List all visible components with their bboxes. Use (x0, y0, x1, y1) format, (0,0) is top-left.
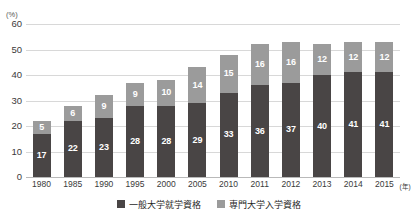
bar-segment-upper-2010[interactable]: 15 (220, 55, 238, 93)
bar-segment-lower-1980[interactable]: 17 (33, 134, 51, 177)
x-tick-label-2010: 2010 (212, 179, 246, 189)
bar-segment-lower-2000[interactable]: 28 (157, 106, 175, 177)
legend-item-1[interactable]: 専門大学入学資格 (217, 198, 301, 211)
x-tick-label-2014: 2014 (336, 179, 370, 189)
bar-group-1985[interactable]: 226 (64, 106, 82, 177)
bar-value-upper-2000: 10 (161, 88, 171, 97)
y-tick-label-20: 20 (0, 121, 22, 131)
legend-swatch-icon-0 (117, 200, 125, 208)
x-tick-label-1985: 1985 (56, 179, 90, 189)
bar-value-lower-2010: 33 (224, 130, 234, 139)
bar-segment-upper-2012[interactable]: 16 (282, 42, 300, 83)
bar-value-lower-1990: 23 (99, 143, 109, 152)
bar-value-upper-2012: 16 (286, 58, 296, 67)
bar-value-upper-2014: 12 (348, 53, 358, 62)
x-tick-label-1995: 1995 (118, 179, 152, 189)
y-tick-label-60: 60 (0, 19, 22, 29)
bar-segment-lower-2015[interactable]: 41 (375, 72, 393, 177)
stacked-bar-chart: (%) 6050403020100 1752262392892810291433… (0, 0, 417, 215)
bar-group-2014[interactable]: 4112 (344, 42, 362, 177)
bar-segment-lower-2011[interactable]: 36 (251, 85, 269, 177)
bar-value-lower-2005: 29 (193, 136, 203, 145)
bar-value-upper-2005: 14 (193, 81, 203, 90)
bar-segment-upper-1985[interactable]: 6 (64, 106, 82, 121)
bar-value-lower-2000: 28 (161, 137, 171, 146)
x-tick-label-2005: 2005 (180, 179, 214, 189)
bar-value-upper-1995: 9 (133, 90, 138, 99)
plot-area: 1752262392892810291433153616371640124112… (26, 24, 400, 177)
bar-value-lower-2015: 41 (380, 120, 390, 129)
bar-segment-upper-1990[interactable]: 9 (95, 95, 113, 118)
bar-segment-lower-1985[interactable]: 22 (64, 121, 82, 177)
bar-value-lower-2014: 41 (348, 120, 358, 129)
bar-segment-upper-1995[interactable]: 9 (126, 83, 144, 106)
y-tick-label-10: 10 (0, 147, 22, 157)
bar-segment-lower-1995[interactable]: 28 (126, 106, 144, 177)
bar-value-lower-2011: 36 (255, 127, 265, 136)
y-tick-label-30: 30 (0, 96, 22, 106)
bar-group-2005[interactable]: 2914 (188, 67, 206, 177)
y-tick-label-40: 40 (0, 70, 22, 80)
bar-value-lower-1995: 28 (130, 137, 140, 146)
bar-value-upper-2011: 16 (255, 60, 265, 69)
x-tick-label-2015: 2015 (367, 179, 401, 189)
page-bleed-text (6, 0, 306, 6)
bar-segment-upper-2014[interactable]: 12 (344, 42, 362, 73)
bar-value-upper-2013: 12 (317, 55, 327, 64)
x-tick-label-2011: 2011 (243, 179, 277, 189)
y-axis-tick-labels: 6050403020100 (0, 24, 22, 177)
bar-group-1980[interactable]: 175 (33, 121, 51, 177)
bar-segment-lower-2014[interactable]: 41 (344, 72, 362, 177)
legend-label-1: 専門大学入学資格 (229, 198, 301, 211)
gridline-0 (26, 177, 400, 178)
bar-segment-lower-2010[interactable]: 33 (220, 93, 238, 177)
bar-value-upper-1990: 9 (102, 102, 107, 111)
bar-segment-lower-1990[interactable]: 23 (95, 118, 113, 177)
y-tick-label-0: 0 (0, 172, 22, 182)
bar-series-container: 1752262392892810291433153616371640124112… (26, 24, 400, 177)
x-tick-label-2000: 2000 (149, 179, 183, 189)
bar-value-upper-2010: 15 (224, 69, 234, 78)
bar-value-lower-1985: 22 (68, 144, 78, 153)
bar-group-1990[interactable]: 239 (95, 95, 113, 177)
x-tick-label-1980: 1980 (25, 179, 59, 189)
x-axis-tick-labels: 1980198519901995200020052010201120122013… (26, 179, 400, 193)
x-tick-label-2013: 2013 (305, 179, 339, 189)
bar-segment-upper-2011[interactable]: 16 (251, 44, 269, 85)
legend-item-0[interactable]: 一般大学就学資格 (117, 198, 201, 211)
bar-group-2010[interactable]: 3315 (220, 55, 238, 177)
bar-segment-upper-2013[interactable]: 12 (313, 44, 331, 75)
bar-value-lower-2012: 37 (286, 125, 296, 134)
bar-segment-upper-1980[interactable]: 5 (33, 121, 51, 134)
y-tick-label-50: 50 (0, 45, 22, 55)
bar-group-2013[interactable]: 4012 (313, 44, 331, 177)
x-tick-label-1990: 1990 (87, 179, 121, 189)
legend-label-0: 一般大学就学資格 (129, 198, 201, 211)
bar-segment-lower-2005[interactable]: 29 (188, 103, 206, 177)
bar-group-2000[interactable]: 2810 (157, 80, 175, 177)
bar-group-2011[interactable]: 3616 (251, 44, 269, 177)
x-axis-unit-label: (年) (399, 181, 410, 191)
x-tick-label-2012: 2012 (274, 179, 308, 189)
bar-value-lower-1980: 17 (37, 151, 47, 160)
bar-segment-lower-2012[interactable]: 37 (282, 83, 300, 177)
legend-swatch-icon-1 (217, 200, 225, 208)
bar-value-upper-2015: 12 (380, 53, 390, 62)
bar-value-lower-2013: 40 (317, 122, 327, 131)
bar-group-1995[interactable]: 289 (126, 83, 144, 177)
bar-segment-lower-2013[interactable]: 40 (313, 75, 331, 177)
chart-legend: 一般大学就学資格専門大学入学資格 (0, 196, 417, 212)
bar-value-upper-1985: 6 (70, 109, 75, 118)
bar-group-2012[interactable]: 3716 (282, 42, 300, 177)
bar-segment-upper-2005[interactable]: 14 (188, 67, 206, 103)
bar-segment-upper-2015[interactable]: 12 (375, 42, 393, 73)
bar-value-upper-1980: 5 (39, 123, 44, 132)
bar-segment-upper-2000[interactable]: 10 (157, 80, 175, 106)
bar-group-2015[interactable]: 4112 (375, 42, 393, 177)
